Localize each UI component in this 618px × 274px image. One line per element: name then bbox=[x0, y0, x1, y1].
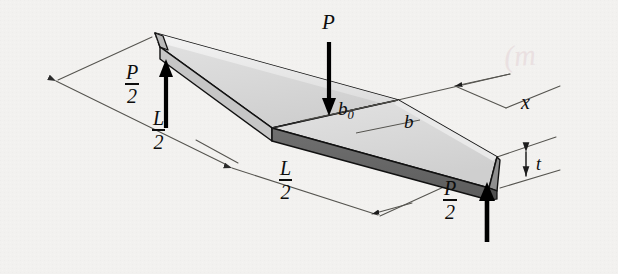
label-reaction-left: P 2 bbox=[125, 62, 139, 107]
label-span-right: L 2 bbox=[279, 158, 292, 203]
label-reaction-left-denominator: 2 bbox=[125, 86, 139, 106]
label-width-root-subscript: 0 bbox=[348, 108, 354, 122]
tapered-plate-diagram bbox=[0, 0, 618, 274]
label-reaction-right-numerator: P bbox=[443, 178, 457, 198]
label-reaction-right: P 2 bbox=[443, 178, 457, 223]
label-thickness-t: t bbox=[536, 155, 541, 173]
label-span-left: L 2 bbox=[152, 108, 165, 153]
label-span-right-denominator: 2 bbox=[279, 182, 292, 202]
label-span-left-denominator: 2 bbox=[152, 132, 165, 152]
label-width-local: b bbox=[404, 112, 414, 131]
label-width-root-symbol: b bbox=[338, 98, 348, 119]
label-span-left-numerator: L bbox=[152, 108, 165, 128]
label-reaction-left-numerator: P bbox=[125, 62, 139, 82]
label-reaction-right-denominator: 2 bbox=[443, 202, 457, 222]
label-span-right-numerator: L bbox=[279, 158, 292, 178]
label-load-P: P bbox=[322, 12, 335, 33]
figure-container: P P 2 P 2 L 2 L 2 b0 b x t (m bbox=[0, 0, 618, 274]
label-width-root: b0 bbox=[338, 99, 354, 121]
label-distance-x: x bbox=[521, 92, 530, 112]
